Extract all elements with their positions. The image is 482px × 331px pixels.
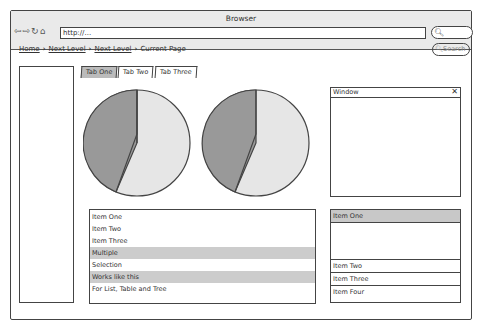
window-title: Browser — [11, 14, 471, 23]
search-icon: 🔍︎ — [435, 45, 443, 53]
accordion: Item One Item Two Item Three Item Four — [330, 209, 461, 303]
back-arrow-icon[interactable]: ⇦ — [14, 26, 23, 36]
search-label: Search — [443, 45, 465, 53]
browser-window: Browser ⇦⇨↻⌂ http://... 🔍︎ Home›Next Lev… — [10, 10, 472, 320]
chevron-right-icon: › — [43, 45, 46, 53]
accordion-item-three[interactable]: Item Three — [331, 273, 460, 286]
left-panel — [19, 66, 74, 303]
window-title: Window — [333, 88, 359, 96]
tab-one[interactable]: Tab One — [81, 66, 118, 78]
search-icon: 🔍︎ — [434, 28, 444, 37]
forward-arrow-icon[interactable]: ⇨ — [23, 26, 32, 36]
list-item[interactable]: For List, Table and Tree — [90, 283, 315, 295]
reload-icon[interactable]: ↻ — [31, 26, 40, 36]
accordion-item-two[interactable]: Item Two — [331, 260, 460, 273]
breadcrumb: Home›Next Level›Next Level›Current Page — [19, 45, 186, 53]
accordion-body — [331, 223, 460, 260]
accordion-item-one[interactable]: Item One — [331, 210, 460, 223]
breadcrumb-home[interactable]: Home — [19, 45, 40, 53]
search-button[interactable]: 🔍︎Search — [432, 43, 470, 56]
chevron-right-icon: › — [134, 45, 137, 53]
list-item[interactable]: Item One — [90, 211, 315, 223]
browser-search-field[interactable]: 🔍︎ — [431, 26, 473, 39]
pie-chart-1 — [83, 86, 193, 201]
list-item-selected[interactable]: Multiple — [90, 247, 315, 259]
accordion-item-four[interactable]: Item Four — [331, 286, 460, 299]
list-item[interactable]: Item Three — [90, 235, 315, 247]
list-box: Item One Item Two Item Three Multiple Se… — [89, 209, 316, 304]
tab-three[interactable]: Tab Three — [154, 66, 197, 78]
breadcrumb-current: Current Page — [140, 45, 185, 53]
pie-chart-2 — [201, 86, 313, 201]
url-field[interactable]: http://... — [60, 27, 426, 39]
chevron-right-icon: › — [89, 45, 92, 53]
close-icon[interactable]: ✕ — [451, 87, 458, 96]
tab-bar: Tab One Tab Two Tab Three — [81, 66, 197, 78]
list-item-selected[interactable]: Works like this — [90, 271, 315, 283]
list-item[interactable]: Item Two — [90, 223, 315, 235]
tab-two[interactable]: Tab Two — [118, 66, 154, 78]
window-header: Window ✕ — [331, 88, 460, 98]
nav-buttons: ⇦⇨↻⌂ — [14, 26, 46, 36]
list-item[interactable]: Selection — [90, 259, 315, 271]
home-icon[interactable]: ⌂ — [40, 26, 47, 36]
window-panel: Window ✕ — [330, 87, 461, 197]
breadcrumb-next-level-1[interactable]: Next Level — [49, 45, 86, 53]
breadcrumb-next-level-2[interactable]: Next Level — [94, 45, 131, 53]
